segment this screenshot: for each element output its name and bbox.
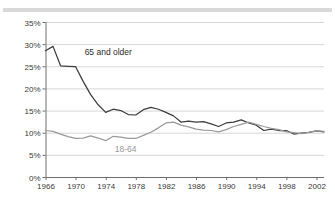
x-tick-label: 1966: [37, 182, 55, 191]
y-axis-tick-labels: 0%5%10%15%20%25%30%35%: [24, 19, 45, 183]
chart-figure: 0%5%10%15%20%25%30%35% 19661970197419781…: [0, 0, 335, 200]
y-tick-label: 25%: [24, 63, 40, 72]
series-line-65-and-older: [46, 46, 325, 134]
y-tick-label: 15%: [24, 107, 40, 116]
gridlines: [46, 23, 325, 178]
y-tick-label: 10%: [24, 129, 40, 138]
x-tick-label: 2002: [308, 182, 326, 191]
y-tick-label: 35%: [24, 19, 40, 28]
x-tick-label: 1990: [218, 182, 236, 191]
series-label-65-and-older: 65 and older: [85, 47, 132, 57]
x-tick-label: 1974: [97, 182, 115, 191]
line-chart: 0%5%10%15%20%25%30%35% 19661970197419781…: [0, 0, 335, 200]
series-line-18-64: [46, 122, 325, 141]
x-tick-label: 1994: [248, 182, 266, 191]
series-label-18-64: 18-64: [115, 144, 137, 154]
y-tick-label: 20%: [24, 85, 40, 94]
x-tick-label: 1978: [127, 182, 145, 191]
y-tick-label: 5%: [29, 151, 41, 160]
x-tick-label: 1998: [278, 182, 296, 191]
x-axis-tick-labels: 1966197019741978198219861990199419982002: [37, 177, 326, 191]
x-tick-label: 1986: [188, 182, 206, 191]
data-series-lines: [46, 46, 325, 140]
x-tick-label: 1982: [158, 182, 176, 191]
x-tick-label: 1970: [67, 182, 85, 191]
y-tick-label: 30%: [24, 41, 40, 50]
